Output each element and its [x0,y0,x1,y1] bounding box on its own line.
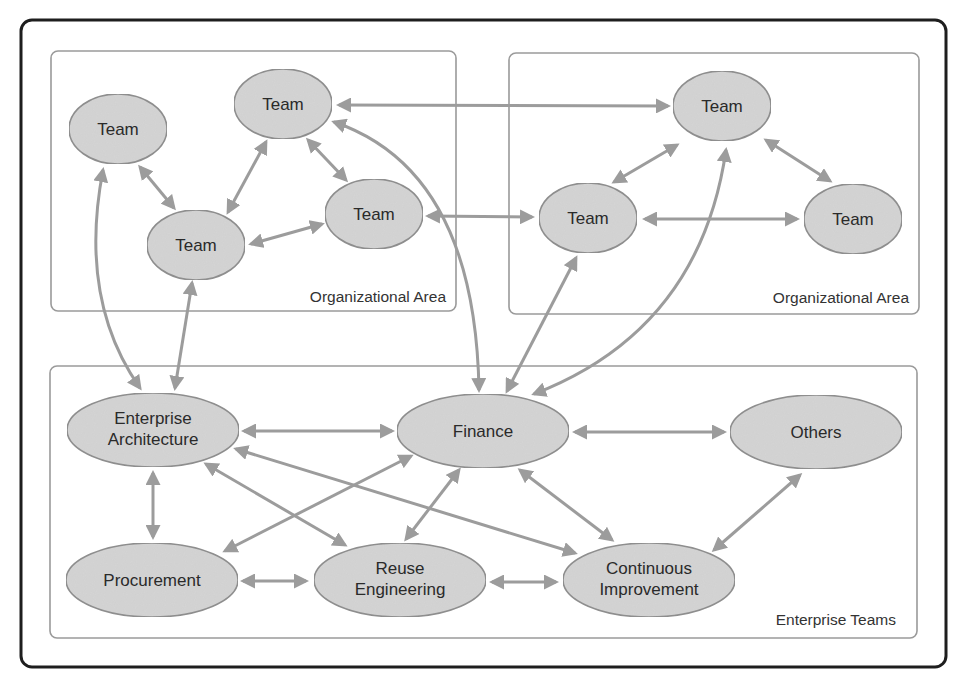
node-label: Team [262,95,304,114]
node-team-l4[interactable]: Team [325,179,423,249]
node-team-l1[interactable]: Team [69,94,167,164]
node-label: Team [567,209,609,228]
node-label: Team [353,205,395,224]
org-area-left-label: Organizational Area [310,288,447,305]
node-label: Finance [453,422,513,441]
node-label-line2: Architecture [108,430,199,449]
node-team-r3[interactable]: Team [804,184,902,254]
node-label: Team [832,210,874,229]
node-team-r2[interactable]: Team [539,183,637,253]
node-reuse-engineering[interactable]: Reuse Engineering [314,543,486,617]
node-label: Team [97,120,139,139]
node-label: Team [701,97,743,116]
node-team-r1[interactable]: Team [673,71,771,141]
edge-team-l2-team-r1 [339,105,668,106]
node-enterprise-architecture[interactable]: Enterprise Architecture [67,393,239,467]
enterprise-teams-label: Enterprise Teams [776,611,897,628]
node-others[interactable]: Others [730,395,902,469]
node-label-line2: Improvement [599,580,698,599]
node-continuous-improvement[interactable]: Continuous Improvement [563,543,735,617]
node-team-l3[interactable]: Team [147,210,245,280]
node-label-line1: Enterprise [114,409,191,428]
node-team-l2[interactable]: Team [234,69,332,139]
org-area-right-label: Organizational Area [773,289,910,306]
node-label-line1: Continuous [606,559,692,578]
node-label: Team [175,236,217,255]
node-label: Procurement [103,571,201,590]
node-label-line2: Engineering [355,580,446,599]
diagram-canvas: Organizational Area Organizational Area … [0,0,957,674]
node-finance[interactable]: Finance [397,394,569,468]
node-label: Others [790,423,841,442]
node-label-line1: Reuse [375,559,424,578]
node-procurement[interactable]: Procurement [66,543,238,617]
